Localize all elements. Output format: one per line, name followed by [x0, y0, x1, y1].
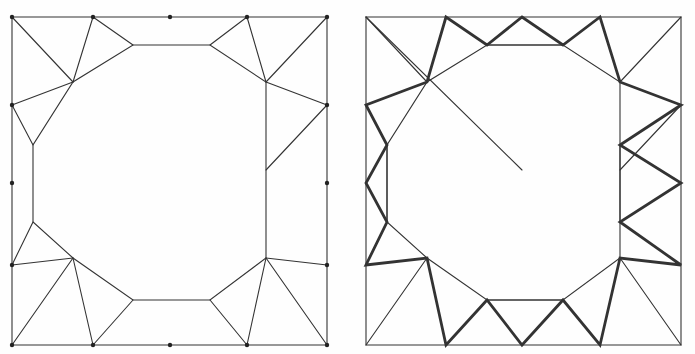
canvas-background	[0, 0, 695, 354]
vertex-dot-7	[325, 263, 329, 267]
vertex-dot-8	[10, 343, 14, 347]
vertex-dot-12	[325, 343, 329, 347]
vertex-dot-11	[245, 343, 249, 347]
vertex-dot-6	[325, 181, 329, 185]
vertex-dot-2	[168, 15, 172, 19]
vertex-dot-0	[10, 15, 14, 19]
vertex-dot-15	[10, 263, 14, 267]
vertex-dot-9	[91, 343, 95, 347]
figures-canvas	[0, 0, 695, 354]
vertex-dot-1	[91, 15, 95, 19]
vertex-dot-3	[245, 15, 249, 19]
vertex-dot-5	[325, 103, 329, 107]
vertex-dot-13	[10, 103, 14, 107]
figure-board: Left figure Right figure	[0, 0, 695, 354]
vertex-dot-14	[10, 181, 14, 185]
vertex-dot-4	[325, 15, 329, 19]
vertex-dot-10	[168, 343, 172, 347]
